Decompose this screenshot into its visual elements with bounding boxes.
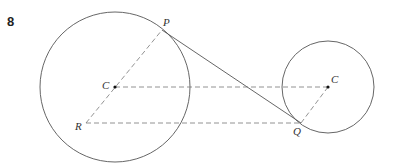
dashed-line-qc [301, 87, 328, 123]
geometry-diagram: P C R C Q [0, 0, 393, 164]
label-q: Q [293, 125, 301, 137]
label-c-small: C [331, 73, 339, 85]
centre-dot-small [326, 85, 329, 88]
label-p: P [162, 16, 170, 28]
label-c-large: C [102, 79, 110, 91]
label-r: R [74, 120, 82, 132]
centre-dot-large [113, 85, 116, 88]
tangent-line-pq [162, 30, 301, 123]
dashed-line-rp [86, 30, 162, 123]
